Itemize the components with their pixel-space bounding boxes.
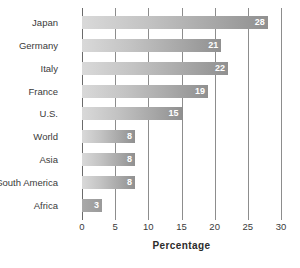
bar-value-label: 8 bbox=[127, 130, 132, 143]
gridline-30 bbox=[281, 8, 282, 220]
category-label: Africa bbox=[0, 199, 58, 212]
bar: 22 bbox=[82, 62, 228, 75]
bar: 8 bbox=[82, 153, 135, 166]
bar-value-label: 21 bbox=[208, 39, 218, 52]
bar: 15 bbox=[82, 107, 182, 120]
bar: 21 bbox=[82, 39, 221, 52]
category-label: Asia bbox=[0, 153, 58, 166]
category-label: Japan bbox=[0, 16, 58, 29]
bar: 8 bbox=[82, 176, 135, 189]
plot-area: Japan28Germany21Italy22France19U.S.15Wor… bbox=[82, 8, 281, 220]
category-label: France bbox=[0, 85, 58, 98]
bar-chart: Japan28Germany21Italy22France19U.S.15Wor… bbox=[0, 0, 300, 268]
x-tick-label-0: 0 bbox=[67, 221, 97, 232]
x-tick-label-15: 15 bbox=[167, 221, 197, 232]
bar-value-label: 28 bbox=[255, 16, 265, 29]
bars-layer: Japan28Germany21Italy22France19U.S.15Wor… bbox=[82, 8, 281, 220]
bar: 28 bbox=[82, 16, 268, 29]
bar-value-label: 19 bbox=[195, 85, 205, 98]
x-tick-label-30: 30 bbox=[266, 221, 296, 232]
x-axis-ticks: 051015202530 bbox=[82, 220, 281, 234]
bar-row: Japan28 bbox=[82, 16, 281, 29]
bar-row: Germany21 bbox=[82, 39, 281, 52]
category-label: South America bbox=[0, 176, 58, 189]
bar: 19 bbox=[82, 85, 208, 98]
category-label: Germany bbox=[0, 39, 58, 52]
bar: 8 bbox=[82, 130, 135, 143]
bar-row: Asia8 bbox=[82, 153, 281, 166]
category-label: Italy bbox=[0, 62, 58, 75]
x-tick-label-25: 25 bbox=[233, 221, 263, 232]
x-tick-label-20: 20 bbox=[200, 221, 230, 232]
x-tick-label-10: 10 bbox=[133, 221, 163, 232]
bar-value-label: 15 bbox=[168, 107, 178, 120]
bar: 3 bbox=[82, 199, 102, 212]
bar-row: France19 bbox=[82, 85, 281, 98]
bar-value-label: 8 bbox=[127, 176, 132, 189]
bar-row: World8 bbox=[82, 130, 281, 143]
bar-row: Italy22 bbox=[82, 62, 281, 75]
category-label: World bbox=[0, 130, 58, 143]
bar-row: South America8 bbox=[82, 176, 281, 189]
bar-row: U.S.15 bbox=[82, 107, 281, 120]
x-tick-label-5: 5 bbox=[100, 221, 130, 232]
category-label: U.S. bbox=[0, 107, 58, 120]
x-axis-title: Percentage bbox=[82, 240, 281, 251]
bar-row: Africa3 bbox=[82, 199, 281, 212]
bar-value-label: 3 bbox=[94, 199, 99, 212]
bar-value-label: 8 bbox=[127, 153, 132, 166]
bar-value-label: 22 bbox=[215, 62, 225, 75]
